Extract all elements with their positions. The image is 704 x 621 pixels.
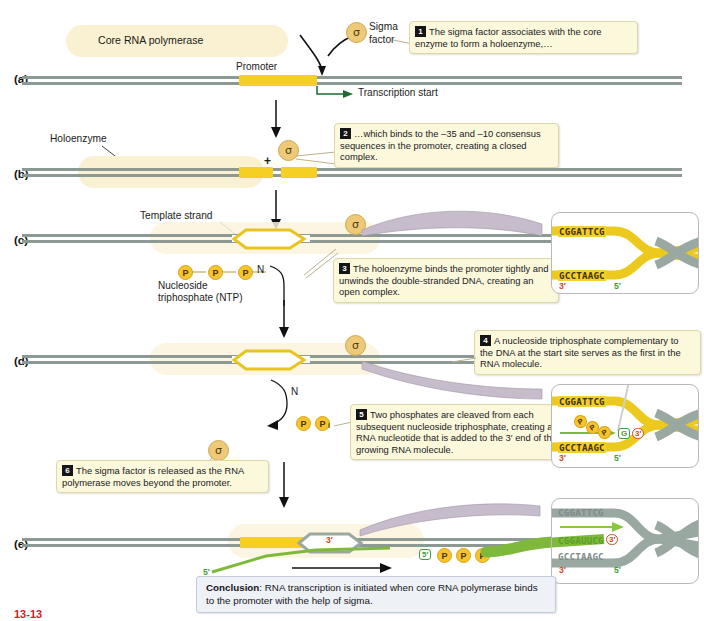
inset-c-3prime-end: 3′ [559,281,566,291]
sigma-glyph-b: σ [285,144,292,157]
inset-d-nucleotide-base: G [618,428,630,439]
inset-c-dna-graphic [552,213,698,293]
panel-e-phosphate-1: P [437,548,452,563]
sigma-factor-label-line1: Sigma [369,21,398,32]
magnify-swoosh-d [358,355,558,401]
transcription-bubble-d [230,348,310,372]
callout-4-number: 4 [480,335,491,346]
sigma-glyph-e: σ [215,444,222,457]
magnify-swoosh-e [356,498,556,538]
template-strand-label: Template strand [140,210,212,221]
core-rna-polymerase-label: Core RNA polymerase [98,34,203,46]
magnify-swoosh-c [358,210,558,256]
polymerase-movement-arrow [290,562,400,574]
callout-1: 1The sigma factor associates with the co… [409,21,638,54]
figure-canvas: (a) Core RNA polymerase σ Sigma factor 1… [0,0,704,621]
nitrogen-base-label-d: N [291,386,298,397]
promoter-region-b-left [239,167,273,178]
panel-e-phosphate-2: P [456,548,471,563]
ntp-label-line2: triphosphate (NTP) [158,292,242,303]
rna-3prime-end-e: 3′ [326,535,333,545]
inset-d-bottom-sequence: GCCTAAGC [558,442,606,453]
callout-2-text: …which binds to the –35 and –10 consensu… [340,128,541,162]
callout-5-number: 5 [356,409,367,420]
conclusion-label: Conclusion [206,582,259,593]
holoenzyme-label: Holoenzyme [50,133,107,144]
phosphate-released-1: P [296,416,311,431]
sigma-factor-label-line2: factor [369,34,394,45]
callout-5: 5Two phosphates are cleaved from each su… [350,404,566,460]
inset-dna-c: CGGATTCG GCCTAAGC 3′ 5′ [551,212,699,294]
inset-e-3prime-end: 3′ [559,565,566,575]
inset-d-3prime-end: 3′ [559,453,566,463]
inset-dna-e: CGGATTCG CGGAUUCG 3′ GCCTAAGC 3′ 5′ [551,498,699,584]
rna-tail-green-e [486,540,556,564]
inset-d-top-sequence: CGGATTCG [558,396,606,407]
inset-e-rna-sequence: CGGAUUCG [558,535,604,546]
callout-1-number: 1 [415,26,426,37]
inset-dna-d: CGGATTCG GCCTAAGC 3′ 5′ P P P G 3′ [551,384,699,468]
callout-6-number: 6 [62,465,73,476]
callout-6-text: The sigma factor is released as the RNA … [62,465,244,488]
ntp-5prime-label-e: 5′ [419,549,431,560]
inset-c-top-sequence: CGGATTCG [558,226,606,237]
callout-3: 3The holoenzyme binds the promoter tight… [333,258,559,303]
conclusion-box: Conclusion: RNA transcription is initiat… [196,576,556,613]
callout-6: 6The sigma factor is released as the RNA… [56,460,269,493]
transcription-start-label: Transcription start [358,87,438,98]
flow-arrow-d-to-e [278,462,292,512]
figure-number: 13-13 [14,608,42,620]
inset-e-5prime-end: 5′ [614,565,621,575]
flow-arrow-c-to-d [278,300,292,342]
callout-3-number: 3 [339,263,350,274]
nitrogen-base-label-c: N [257,264,264,275]
promoter-label-a: Promoter [236,61,277,72]
transcription-bubble-c [230,227,310,251]
plus-sign-b: + [264,154,271,168]
ntp-label-line1: Nucleoside [158,280,207,291]
inset-e-bottom-sequence: GCCTAAGC [558,551,604,562]
callout-2: 2…which binds to the –35 and –10 consens… [334,123,559,168]
inset-c-bottom-sequence: GCCTAAGC [558,270,606,281]
callout-5-text: Two phosphates are cleaved from each sub… [356,409,558,455]
callout-2-number: 2 [340,128,351,139]
promoter-region-b-right [281,167,317,178]
dna-duplex-b [22,168,682,177]
inset-e-top-sequence: CGGATTCG [558,507,604,518]
callout-1-text: The sigma factor associates with the cor… [415,26,601,49]
sigma-factor-circle-a: σ [346,22,367,43]
callout-3-text: The holoenzyme binds the promoter tightl… [339,263,548,297]
sigma-glyph: σ [353,26,360,39]
promoter-region-a [239,75,317,86]
inset-d-5prime-end: 5′ [614,453,621,463]
inset-c-5prime-end: 5′ [614,281,621,291]
flow-arrow-a-to-b [270,100,284,142]
phosphate-i-subscript: i [328,421,330,430]
sigma-glyph-d: σ [352,339,359,352]
sigma-factor-circle-d: σ [345,335,366,356]
